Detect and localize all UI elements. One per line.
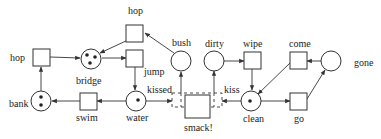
label-come: come <box>289 38 311 49</box>
token <box>136 98 140 102</box>
label-jump: jump <box>143 66 165 77</box>
arc-come-clean <box>258 63 290 94</box>
token <box>85 53 89 57</box>
label-bush: bush <box>172 37 191 48</box>
label-swim: swim <box>76 112 98 123</box>
transition-hop-top <box>126 25 143 42</box>
petri-net-diagram: hop hop jump swim wipe come go smack! br… <box>0 0 381 139</box>
label-gone: gone <box>354 57 374 68</box>
transition-go <box>290 93 307 110</box>
transition-come <box>290 52 307 69</box>
label-kissed: kissed <box>147 84 172 95</box>
token <box>39 95 43 99</box>
smack-transition <box>172 93 222 118</box>
label-clean: clean <box>243 113 264 124</box>
place-bank <box>31 91 51 111</box>
token <box>39 103 43 107</box>
label-dirty: dirty <box>205 38 224 49</box>
arc-bush-hop <box>145 33 174 53</box>
label-bank: bank <box>9 98 28 109</box>
token <box>88 61 92 65</box>
smack-box <box>185 95 210 118</box>
label-hop-left: hop <box>10 52 25 63</box>
transition-hop-left <box>33 49 50 66</box>
transition-wipe <box>244 52 261 69</box>
label-wipe: wipe <box>243 38 263 49</box>
place-bridge <box>81 49 101 69</box>
label-water: water <box>126 112 149 123</box>
place-gone <box>321 51 341 71</box>
place-water <box>126 91 146 111</box>
token <box>93 55 97 59</box>
transition-swim <box>80 93 97 110</box>
label-hop-top: hop <box>128 5 143 16</box>
arc-go-gone <box>307 70 325 99</box>
arc-hop-bridge <box>50 57 80 58</box>
transitions <box>33 25 307 110</box>
label-smack: smack! <box>184 122 213 133</box>
place-bush <box>171 51 191 71</box>
transition-jump <box>126 50 143 67</box>
label-bridge: bridge <box>76 75 102 86</box>
label-go: go <box>294 113 304 124</box>
place-dirty <box>204 51 224 71</box>
label-kiss: kiss <box>224 84 240 95</box>
token <box>248 99 252 103</box>
arc-hophop-bridge <box>100 40 128 53</box>
